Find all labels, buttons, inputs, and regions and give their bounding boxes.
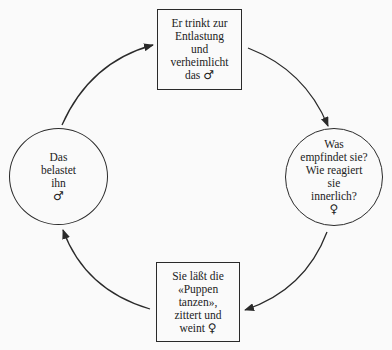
- node-text: sie: [328, 177, 341, 190]
- node-text: Was: [324, 138, 344, 151]
- male-symbol-icon: ♂: [53, 190, 64, 203]
- female-symbol-icon: ♀: [330, 203, 339, 216]
- node-text: «Puppen: [178, 283, 218, 296]
- node-text: Wie reagiert: [306, 164, 363, 177]
- node-text: tanzen»,: [179, 296, 218, 309]
- node-text: empfindet sie?: [300, 151, 367, 164]
- node-top-box: Er trinkt zur Entlastung und verheimlich…: [157, 9, 242, 90]
- node-text: verheimlicht: [170, 56, 228, 69]
- node-text: Er trinkt zur: [171, 17, 227, 30]
- node-text: Das: [50, 151, 68, 164]
- node-left-circle: Das belastet ihn ♂: [9, 128, 108, 225]
- node-text-row: das ♂: [185, 69, 214, 82]
- node-right-circle: Was empfindet sie? Wie reagiert sie inne…: [285, 128, 383, 226]
- node-text: das: [185, 69, 200, 81]
- node-text: weint: [179, 322, 205, 334]
- node-text: ihn: [51, 177, 66, 190]
- arrow-right-to-bottom: [245, 232, 327, 310]
- female-symbol-icon: ♀: [208, 321, 217, 335]
- node-text: belastet: [41, 164, 76, 177]
- node-text: und: [191, 43, 208, 56]
- male-symbol-icon: ♂: [203, 68, 214, 82]
- node-text: Sie läßt die: [172, 270, 224, 283]
- node-text: Entlastung: [175, 30, 224, 43]
- arrow-left-to-top: [62, 45, 153, 125]
- arrow-bottom-to-left: [63, 230, 150, 309]
- arrow-top-to-right: [248, 48, 328, 126]
- node-bottom-box: Sie läßt die «Puppen tanzen», zittert un…: [156, 262, 240, 342]
- node-text-row: weint ♀: [179, 322, 216, 335]
